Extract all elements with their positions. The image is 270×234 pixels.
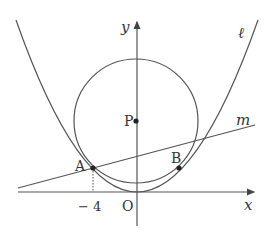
parabola-label: ℓ <box>238 24 244 42</box>
point-a <box>90 165 95 170</box>
point-b <box>176 165 181 170</box>
point-a-label: A <box>74 158 86 174</box>
point-p-label: P <box>124 113 133 129</box>
figure-canvas: y x O ℓ m A B P − 4 <box>0 0 270 234</box>
line-m-label: m <box>236 111 250 129</box>
x-axis-label: x <box>244 196 253 214</box>
point-p <box>133 118 138 123</box>
origin-label: O <box>122 198 133 214</box>
tick-label-minus-4: − 4 <box>78 199 101 214</box>
geometry-figure: y x O ℓ m A B P − 4 <box>0 0 270 234</box>
point-b-label: B <box>171 150 181 166</box>
y-axis-label: y <box>120 18 130 36</box>
